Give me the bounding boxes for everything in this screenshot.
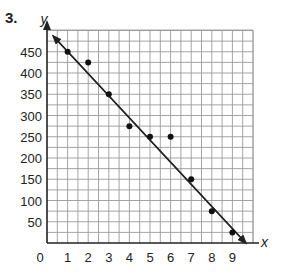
figure: 3. yx 1234567895010015020025030035040045… xyxy=(0,0,281,273)
y-tick-label: 50 xyxy=(28,215,42,230)
data-point xyxy=(106,91,112,97)
y-tick-label: 350 xyxy=(20,87,42,102)
y-tick-label: 150 xyxy=(20,172,42,187)
x-tick-label: 5 xyxy=(146,250,153,265)
y-tick-label: 250 xyxy=(20,130,42,145)
x-tick-label: 2 xyxy=(85,250,92,265)
x-tick-label: 1 xyxy=(64,250,71,265)
data-point xyxy=(229,229,235,235)
data-point xyxy=(65,49,71,55)
y-tick-label: 200 xyxy=(20,151,42,166)
y-axis-label: y xyxy=(40,11,49,27)
y-tick-label: 100 xyxy=(20,194,42,209)
y-tick-label: 450 xyxy=(20,45,42,60)
x-axis-label: x xyxy=(260,234,269,250)
x-tick-label: 8 xyxy=(208,250,215,265)
data-point xyxy=(85,59,91,65)
data-point xyxy=(126,123,132,129)
x-tick-label: 4 xyxy=(126,250,133,265)
x-tick-label: 3 xyxy=(105,250,112,265)
y-tick-label: 300 xyxy=(20,109,42,124)
x-tick-label: 6 xyxy=(167,250,174,265)
x-tick-label: 7 xyxy=(188,250,195,265)
origin-label: 0 xyxy=(36,250,43,265)
x-tick-label: 9 xyxy=(229,250,236,265)
axes: yx xyxy=(40,11,270,250)
data-point xyxy=(147,134,153,140)
data-point xyxy=(209,208,215,214)
data-point xyxy=(168,134,174,140)
data-point xyxy=(188,176,194,182)
y-tick-label: 400 xyxy=(20,66,42,81)
scatter-plot: yx 123456789501001502002503003504004500 xyxy=(0,0,281,273)
problem-number: 3. xyxy=(5,9,18,26)
